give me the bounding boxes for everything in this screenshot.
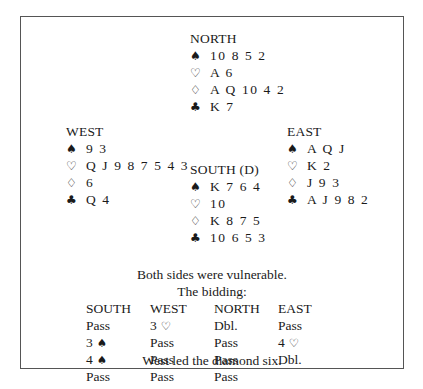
- hand-east: EAST ♠A Q J ♡K 2 ♢J 9 3 ♣A J 9 8 2: [287, 123, 369, 208]
- hearts-row: ♡Q J 9 8 7 5 4 3: [66, 157, 189, 174]
- bid-cell: Pass: [150, 334, 214, 351]
- hand-north: NORTH ♠10 8 5 2 ♡A 6 ♢A Q 10 4 2 ♣K 7: [190, 30, 285, 115]
- diamond-icon: ♢: [66, 175, 86, 192]
- hand-label: SOUTH (D): [190, 161, 267, 178]
- hand-south: SOUTH (D) ♠K 7 6 4 ♡10 ♢K 8 7 5 ♣10 6 5 …: [190, 161, 267, 246]
- spades-row: ♠9 3: [66, 140, 189, 157]
- hand-label: EAST: [287, 123, 369, 140]
- bidding-header-west: WEST: [150, 300, 214, 317]
- bid-cell: [278, 368, 342, 385]
- heart-icon: ♡: [289, 336, 299, 350]
- bid-cell: Pass: [214, 368, 278, 385]
- bidding-title: The bidding:: [20, 283, 404, 300]
- bid-cell: 3♠: [86, 334, 150, 351]
- heart-icon: ♡: [161, 319, 171, 333]
- diamonds-row: ♢6: [66, 174, 189, 191]
- heart-icon: ♡: [190, 65, 210, 82]
- bidding-header-south: SOUTH: [86, 300, 150, 317]
- bidding-row: Pass 3♡ Dbl. Pass: [86, 317, 342, 334]
- hand-label: NORTH: [190, 30, 285, 47]
- clubs-row: ♣Q 4: [66, 191, 189, 208]
- bidding-header-row: SOUTH WEST NORTH EAST: [86, 300, 342, 317]
- spades-row: ♠K 7 6 4: [190, 178, 267, 195]
- bidding-header-north: NORTH: [214, 300, 278, 317]
- clubs-row: ♣A J 9 8 2: [287, 191, 369, 208]
- bid-cell: Pass: [150, 368, 214, 385]
- diamond-icon: ♢: [190, 213, 210, 230]
- diamond-icon: ♢: [287, 175, 307, 192]
- spades-row: ♠10 8 5 2: [190, 47, 285, 64]
- spade-icon: ♠: [66, 141, 86, 158]
- club-icon: ♣: [190, 99, 210, 116]
- diamonds-row: ♢J 9 3: [287, 174, 369, 191]
- bidding-header-east: EAST: [278, 300, 342, 317]
- hand-label: WEST: [66, 123, 189, 140]
- bid-cell: Pass: [278, 317, 342, 334]
- bid-cell: Dbl.: [214, 317, 278, 334]
- clubs-row: ♣10 6 5 3: [190, 229, 267, 246]
- bid-cell: 3♡: [150, 317, 214, 334]
- heart-icon: ♡: [66, 158, 86, 175]
- spades-row: ♠A Q J: [287, 140, 369, 157]
- spade-icon: ♠: [190, 48, 210, 65]
- bid-cell: 4♡: [278, 334, 342, 351]
- hearts-row: ♡A 6: [190, 64, 285, 81]
- clubs-row: ♣K 7: [190, 98, 285, 115]
- bidding-table: SOUTH WEST NORTH EAST Pass 3♡ Dbl. Pass …: [86, 300, 342, 385]
- diamonds-row: ♢A Q 10 4 2: [190, 81, 285, 98]
- spade-icon: ♠: [190, 179, 210, 196]
- bid-cell: Pass: [86, 368, 150, 385]
- bid-cell: Pass: [214, 334, 278, 351]
- hearts-row: ♡K 2: [287, 157, 369, 174]
- hand-west: WEST ♠9 3 ♡Q J 9 8 7 5 4 3 ♢6 ♣Q 4: [66, 123, 189, 208]
- opening-lead-text: West led the diamond six.: [20, 352, 404, 369]
- heart-icon: ♡: [190, 196, 210, 213]
- diamond-icon: ♢: [190, 82, 210, 99]
- club-icon: ♣: [190, 230, 210, 247]
- vulnerability-text: Both sides were vulnerable.: [20, 266, 404, 283]
- bidding-row: 3♠ Pass Pass 4♡: [86, 334, 342, 351]
- club-icon: ♣: [66, 192, 86, 209]
- spade-icon: ♠: [97, 336, 107, 350]
- bidding-row: Pass Pass Pass: [86, 368, 342, 385]
- heart-icon: ♡: [287, 158, 307, 175]
- diamonds-row: ♢K 8 7 5: [190, 212, 267, 229]
- hearts-row: ♡10: [190, 195, 267, 212]
- bid-cell: Pass: [86, 317, 150, 334]
- club-icon: ♣: [287, 192, 307, 209]
- spade-icon: ♠: [287, 141, 307, 158]
